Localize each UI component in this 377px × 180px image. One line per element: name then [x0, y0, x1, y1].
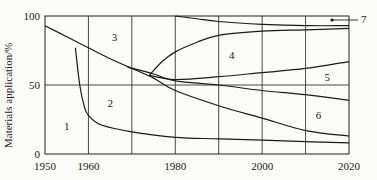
- y-tick-label: 0: [35, 148, 41, 160]
- x-tick-label: 1980: [164, 160, 187, 172]
- grid: 19501960198020002020050100: [24, 10, 361, 172]
- x-tick-label: 2000: [251, 160, 274, 172]
- region-label: 6: [316, 109, 322, 121]
- curves: [45, 16, 349, 143]
- curve-boundary-4-lower: [149, 62, 349, 80]
- x-tick-label: 2020: [338, 160, 361, 172]
- curve-boundary-4-upper: [149, 28, 349, 75]
- region-label: 1: [64, 120, 70, 132]
- chart: 19501960198020002020050100 1234567 Mater…: [0, 0, 377, 180]
- y-axis-label: Materials application/%: [2, 43, 14, 148]
- region-label: 4: [229, 49, 235, 61]
- region-label: 2: [107, 97, 113, 109]
- region-label: 3: [112, 31, 118, 43]
- labels: 1234567: [64, 13, 367, 132]
- x-tick-label: 1960: [77, 160, 100, 172]
- curve-boundary-3-lower: [128, 67, 349, 100]
- region-label: 7: [361, 13, 367, 25]
- x-tick-label: 1950: [34, 160, 57, 172]
- y-tick-label: 100: [24, 10, 41, 22]
- y-tick-label: 50: [29, 79, 41, 91]
- region-label: 5: [325, 71, 331, 83]
